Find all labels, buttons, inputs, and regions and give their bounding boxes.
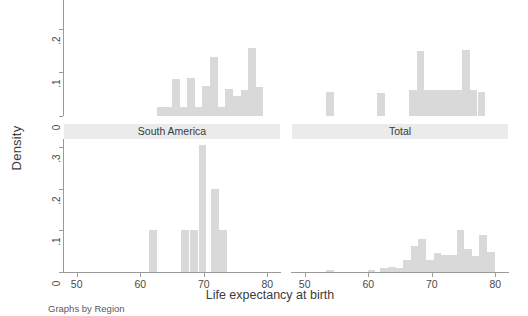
x-axis-tick-label: 50 bbox=[290, 278, 320, 290]
panel-total: Total bbox=[292, 124, 508, 272]
histogram-bar bbox=[256, 87, 264, 116]
x-axis-tick bbox=[77, 273, 78, 277]
histogram-bar bbox=[487, 252, 495, 272]
histogram-bar bbox=[403, 260, 411, 272]
plot-area bbox=[292, 139, 508, 272]
x-axis-tick bbox=[432, 273, 433, 277]
x-axis-tick bbox=[140, 273, 141, 277]
x-axis-title: Life expectancy at birth bbox=[160, 288, 380, 302]
histogram-bar bbox=[418, 239, 426, 272]
x-axis-tick-label: 80 bbox=[480, 278, 510, 290]
histogram-bar bbox=[441, 255, 449, 272]
histogram-bar bbox=[157, 107, 165, 116]
x-axis-line bbox=[291, 272, 509, 273]
histogram-bar bbox=[462, 50, 470, 117]
x-axis-tick bbox=[204, 273, 205, 277]
x-axis-tick-label: 70 bbox=[189, 278, 219, 290]
histogram-bar bbox=[172, 79, 180, 116]
histogram-bar bbox=[164, 107, 172, 116]
histogram-bar bbox=[424, 90, 432, 116]
panel-title-strip: South America bbox=[64, 124, 280, 139]
plot-area bbox=[292, 0, 508, 116]
histogram-bar bbox=[434, 253, 442, 272]
histogram-bar bbox=[248, 48, 256, 116]
y-axis-tick-label: .1 bbox=[51, 229, 62, 255]
x-axis-tick bbox=[305, 273, 306, 277]
x-axis-tick-label: 60 bbox=[353, 278, 383, 290]
panel-south-america: South America bbox=[64, 124, 280, 272]
histogram-bar bbox=[149, 230, 157, 272]
histogram-bar bbox=[409, 90, 417, 116]
histogram-bar bbox=[432, 90, 440, 116]
histogram-bar bbox=[377, 93, 385, 116]
panel-top-left bbox=[64, 0, 280, 116]
histogram-bar bbox=[426, 260, 434, 272]
x-axis-tick-label: 80 bbox=[252, 278, 282, 290]
histogram-bar bbox=[464, 249, 472, 272]
x-axis-line bbox=[63, 272, 281, 273]
y-axis-tick-label: .2 bbox=[51, 27, 62, 53]
x-axis-tick-label: 70 bbox=[417, 278, 447, 290]
panel-title: Total bbox=[292, 124, 508, 139]
x-axis-tick-label: 60 bbox=[125, 278, 155, 290]
figure-note: Graphs by Region bbox=[48, 303, 125, 314]
y-axis-line bbox=[63, 0, 64, 116]
panel-title: South America bbox=[64, 124, 280, 139]
histogram-bar bbox=[455, 90, 463, 116]
histogram-bar bbox=[241, 90, 249, 116]
histogram-bar bbox=[187, 78, 195, 116]
panel-title-strip: Total bbox=[292, 124, 508, 139]
plot-area bbox=[64, 0, 280, 116]
histogram-bar bbox=[210, 57, 218, 116]
histogram-bar bbox=[326, 92, 334, 116]
histogram-bar bbox=[478, 92, 486, 116]
histogram-bar bbox=[195, 107, 203, 116]
y-axis-tick-label: .1 bbox=[51, 71, 62, 97]
y-axis-line bbox=[63, 139, 64, 272]
y-axis-tick-label: .2 bbox=[51, 187, 62, 213]
y-axis-tick-label: .3 bbox=[51, 146, 62, 172]
histogram-bar bbox=[472, 256, 480, 272]
histogram-bar bbox=[479, 235, 487, 272]
histogram-bar bbox=[417, 51, 425, 116]
histogram-bar bbox=[199, 145, 207, 272]
x-axis-tick bbox=[368, 273, 369, 277]
histogram-bar bbox=[447, 90, 455, 116]
histogram-bar bbox=[233, 96, 241, 116]
histogram-bar bbox=[218, 107, 226, 116]
histogram-bar bbox=[180, 107, 188, 116]
histogram-bar bbox=[202, 86, 210, 116]
histogram-bar bbox=[225, 89, 233, 116]
y-axis-tick-label: 0 bbox=[51, 271, 62, 297]
histogram-bar bbox=[219, 230, 227, 272]
panel-top-right bbox=[292, 0, 508, 116]
histogram-bar bbox=[457, 230, 465, 272]
plot-area bbox=[64, 139, 280, 272]
histogram-bar bbox=[470, 90, 478, 116]
histogram-bar bbox=[181, 230, 189, 272]
y-axis-title: Density bbox=[9, 78, 27, 218]
y-axis-tick-label: 0 bbox=[51, 115, 62, 141]
stata-histogram-figure: Density South AmericaTotal Life expectan… bbox=[0, 0, 528, 316]
histogram-bar bbox=[411, 246, 419, 272]
histogram-bar bbox=[211, 189, 219, 272]
x-axis-tick bbox=[267, 273, 268, 277]
histogram-bar bbox=[439, 90, 447, 116]
x-axis-tick-label: 50 bbox=[62, 278, 92, 290]
histogram-bar bbox=[449, 255, 457, 272]
histogram-bar bbox=[190, 230, 198, 272]
x-axis-tick bbox=[495, 273, 496, 277]
